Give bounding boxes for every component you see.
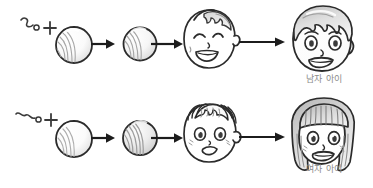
sperm-icon [16, 113, 41, 122]
egg-cell-icon [56, 121, 92, 157]
sperm-icon [21, 18, 39, 30]
stage-baby-girl [176, 94, 246, 188]
stage-baby-boy [176, 0, 246, 94]
diagram-row-girl: 여자 아이 [0, 94, 373, 188]
caption-boy: 남자 아이 [283, 72, 365, 85]
arrow-fertilization-to-zygote-girl [90, 131, 116, 145]
stage-fertilization-boy [8, 0, 96, 94]
baby-boy-face-icon [184, 10, 240, 68]
girl-face-icon [292, 98, 354, 171]
diagram-row-boy: 남자 아이 [0, 0, 373, 94]
baby-girl-face-icon [184, 104, 241, 162]
boy-face-icon [293, 6, 353, 71]
stage-fertilization-girl [8, 94, 96, 188]
egg-cell-icon [56, 27, 92, 63]
plus-icon [45, 114, 57, 126]
caption-girl: 여자 아이 [283, 162, 365, 175]
development-diagram: 남자 아이 [0, 0, 373, 188]
arrow-fertilization-to-zygote-boy [90, 37, 116, 51]
arrow-baby-to-child-girl [238, 130, 286, 144]
plus-icon [44, 22, 56, 34]
arrow-baby-to-child-boy [238, 35, 286, 49]
